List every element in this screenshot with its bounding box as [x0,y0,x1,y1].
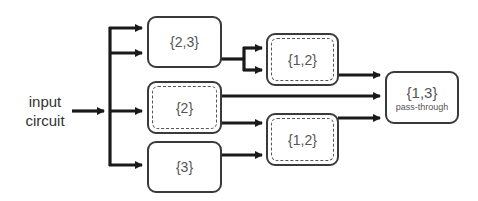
input-label-line1: input [14,92,76,111]
node-label: {1,2} [288,132,317,148]
node-sublabel: pass-through [396,102,449,112]
input-label-line2: circuit [14,111,76,130]
node-label: {1,3} [407,84,438,101]
node-3: {3} [147,141,222,193]
node-1-2-top: {1,2} [266,33,339,86]
node-1-2-bottom: {1,2} [266,113,339,166]
node-2-3: {2,3} [147,16,222,68]
node-2: {2} [147,81,222,134]
node-label: {2} [176,100,193,116]
node-label: {1,2} [288,52,317,68]
node-label: {2,3} [170,34,199,50]
node-label: {3} [176,159,193,175]
node-1-3-pass-through: {1,3} pass-through [385,71,459,124]
input-circuit-label: input circuit [14,92,76,130]
